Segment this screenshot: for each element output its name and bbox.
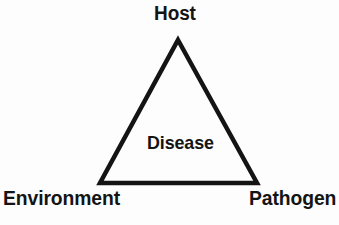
vertex-label-host: Host xyxy=(154,3,196,23)
center-label-disease: Disease xyxy=(147,133,214,152)
diagram-canvas: Host Disease Environment Pathogen xyxy=(0,0,339,225)
triangle-outline xyxy=(100,40,257,183)
vertex-label-environment: Environment xyxy=(3,187,120,208)
vertex-label-pathogen: Pathogen xyxy=(249,187,336,208)
